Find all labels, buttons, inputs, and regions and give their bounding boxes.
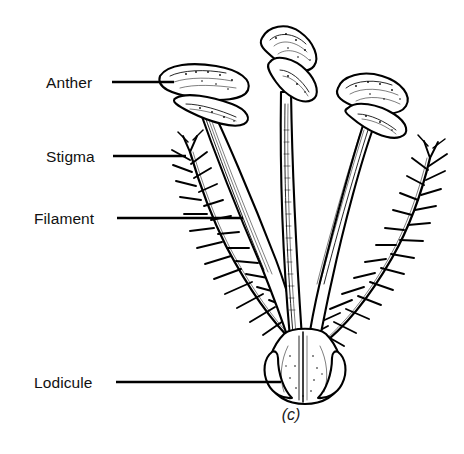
grass-floret-illustration: Anther Stigma Filament Lodicule (c): [0, 0, 464, 454]
figure-caption: (c): [282, 406, 301, 423]
anther-center: [261, 26, 317, 101]
anther-right: [337, 74, 408, 138]
anther-left: [159, 64, 248, 126]
filament-right: [308, 122, 374, 346]
label-stigma: Stigma: [46, 148, 95, 165]
label-filament: Filament: [34, 210, 95, 227]
figure-canvas: Anther Stigma Filament Lodicule (c): [0, 0, 464, 454]
label-anther: Anther: [46, 74, 92, 91]
label-lodicule: Lodicule: [34, 374, 93, 391]
